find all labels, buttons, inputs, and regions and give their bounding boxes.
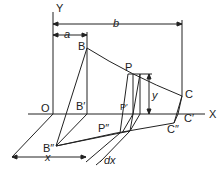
point-b-label: B <box>78 41 85 52</box>
dx-leader <box>96 160 102 165</box>
point-p-label: P <box>125 62 132 73</box>
b-arrow-left-icon <box>53 22 58 26</box>
bdouble-pdouble-line <box>56 133 120 146</box>
point-pprime-label: P′ <box>120 103 128 112</box>
b-arrow-right-icon <box>177 22 182 26</box>
a-arrow-right-icon <box>82 33 87 37</box>
point-pdouble-label: P″ <box>98 123 109 134</box>
a-arrow-left-icon <box>53 33 58 37</box>
b-bdouble-line <box>56 48 87 146</box>
y-dimension-label: y <box>152 90 158 101</box>
x-dimension-label: x <box>45 152 51 163</box>
origin-label: O <box>41 103 50 114</box>
dx-label: dx <box>104 155 116 166</box>
c-cdouble-line <box>174 96 182 123</box>
b-label: b <box>113 18 119 29</box>
x-axis-label: X <box>209 109 216 120</box>
point-cdouble-label: C″ <box>167 124 179 135</box>
point-bprime-label: B′ <box>76 101 85 112</box>
upper-curve <box>87 48 182 96</box>
y-axis-label: Y <box>56 3 63 14</box>
a-label: a <box>64 29 70 40</box>
y-arrow-bottom-icon <box>147 109 151 114</box>
diagram-canvas <box>0 0 220 169</box>
y-arrow-top-icon <box>147 74 151 79</box>
x-arrow-right-icon <box>81 155 86 159</box>
point-c-label: C <box>185 89 193 100</box>
point-cprime-label: C′ <box>184 113 194 124</box>
